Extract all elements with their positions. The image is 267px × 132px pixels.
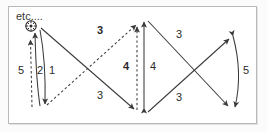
- label-left-dashed-5: 5: [18, 65, 24, 76]
- label-center-solid-4: 4: [150, 61, 156, 72]
- figure-canvas: etc.... 5 2 1 3 3 4 4 3 3 5: [0, 0, 267, 132]
- edge-right-upper-3: [148, 21, 228, 106]
- label-right-upper-3: 3: [176, 29, 182, 40]
- edge-right-lower-3: [148, 39, 229, 112]
- label-bottom-solid-diagonal-3: 3: [97, 90, 103, 101]
- etc-caption: etc....: [16, 11, 43, 22]
- label-center-dashed-4: 4: [123, 61, 129, 72]
- edge-left-dashed-5: [31, 40, 33, 107]
- edge-right-pair-5: [233, 36, 239, 107]
- label-right-lower-3: 3: [176, 92, 182, 103]
- label-right-pair-5: 5: [243, 65, 249, 76]
- label-left-inner-up-2: 2: [37, 65, 43, 76]
- label-left-inner-down-1: 1: [49, 65, 55, 76]
- label-top-dashed-diagonal-3: 3: [97, 25, 103, 36]
- origin-node-marker: [26, 21, 37, 32]
